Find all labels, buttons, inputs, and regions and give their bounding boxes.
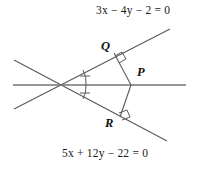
point-label-r: R [105, 116, 113, 131]
equation-label-top: 3x − 4y − 2 = 0 [96, 4, 170, 16]
equation-label-bottom: 5x + 12y − 22 = 0 [62, 147, 148, 159]
point-label-q: Q [101, 39, 110, 54]
point-label-p: P [137, 65, 145, 80]
geometry-canvas [0, 0, 203, 171]
line-3x-4y-2 [14, 29, 170, 109]
segment-PQ [114, 53, 131, 85]
geometry-figure: 3x − 4y − 2 = 0 5x + 12y − 22 = 0 Q P R [0, 0, 203, 171]
